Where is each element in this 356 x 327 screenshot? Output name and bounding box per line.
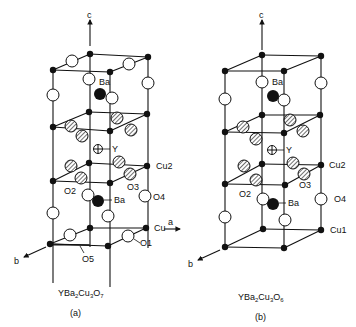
label-cu2-b: Cu2	[329, 160, 346, 170]
a-axis-label: a	[168, 217, 173, 227]
crystal-structure-figure: c b a	[0, 0, 356, 327]
y-atom	[94, 145, 111, 154]
label-cu1-b: Cu1	[330, 225, 347, 235]
label-o1: O1	[140, 238, 152, 248]
label-cu2: Cu2	[156, 161, 173, 171]
formula-a: YBa2Cu3O7	[58, 288, 104, 299]
caption-a: (a)	[70, 308, 81, 318]
panel-a-yba2cu3o7: c b a	[14, 10, 180, 318]
ba-atom	[94, 88, 106, 100]
label-ba-top: Ba	[99, 77, 110, 87]
b-axis-label: b	[14, 256, 19, 266]
formula-b: YBa2Cu3O6	[238, 292, 284, 303]
label-o4-b: O4	[334, 194, 346, 204]
label-ba-top-b: Ba	[272, 77, 283, 87]
label-o2-b: O2	[239, 189, 251, 199]
b-axis-arrow	[24, 247, 46, 257]
label-o3-b: O3	[299, 180, 311, 190]
label-ba-bottom: Ba	[114, 195, 125, 205]
c-axis-label: c	[87, 10, 92, 20]
b-axis-arrow-b	[198, 250, 220, 260]
label-o2: O2	[64, 186, 76, 196]
label-cu: Cu	[154, 223, 166, 233]
label-o3: O3	[127, 182, 139, 192]
label-y-b: Y	[286, 145, 292, 155]
panel-b-yba2cu3o6: c b	[188, 10, 347, 322]
b-axis-label-b: b	[188, 259, 193, 269]
label-o4: O4	[153, 192, 165, 202]
label-ba-bottom-b: Ba	[288, 198, 299, 208]
label-y: Y	[112, 144, 118, 154]
c-axis-label-b: c	[259, 10, 264, 20]
caption-b: (b)	[255, 312, 266, 322]
label-o5: O5	[82, 254, 94, 264]
y-atom-b	[268, 146, 285, 155]
